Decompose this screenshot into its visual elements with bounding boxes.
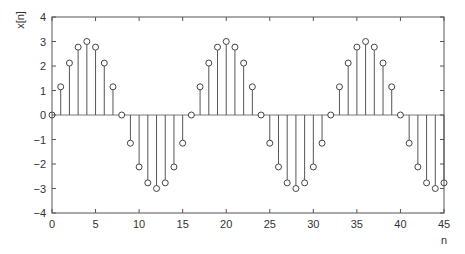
y-tick-label: 4: [40, 11, 46, 23]
stem-marker: [93, 44, 99, 50]
stem-marker: [415, 164, 421, 170]
stem-marker: [188, 112, 194, 118]
x-axis-label: n: [441, 234, 447, 246]
stem-marker: [162, 180, 168, 186]
y-tick-label: −4: [33, 207, 46, 219]
y-tick-label: 3: [40, 36, 46, 48]
stem-marker: [101, 60, 107, 66]
stem-marker: [145, 180, 151, 186]
x-tick-label: 10: [133, 218, 145, 230]
stem-marker: [180, 140, 186, 146]
stem-marker: [136, 164, 142, 170]
stem-marker: [110, 84, 116, 90]
stem-marker: [249, 84, 255, 90]
stem-marker: [66, 60, 72, 66]
stem-marker: [345, 60, 351, 66]
stem-marker: [354, 44, 360, 50]
x-tick-label: 0: [49, 218, 55, 230]
stem-marker: [293, 186, 299, 192]
stem-marker: [275, 164, 281, 170]
x-tick-label: 5: [92, 218, 98, 230]
stem-marker: [197, 84, 203, 90]
stem-marker: [241, 60, 247, 66]
stem-marker: [319, 140, 325, 146]
stem-marker: [206, 60, 212, 66]
x-tick-label: 25: [264, 218, 276, 230]
stem-marker: [154, 186, 160, 192]
stem-marker: [119, 112, 125, 118]
y-tick-label: 2: [40, 60, 46, 72]
stem-marker: [232, 44, 238, 50]
stem-marker: [424, 180, 430, 186]
y-tick-label: 0: [40, 109, 46, 121]
stem-marker: [363, 39, 369, 45]
stem-marker: [432, 186, 438, 192]
y-tick-label: −3: [33, 183, 46, 195]
stem-marker: [389, 84, 395, 90]
y-axis-label: x[n]: [14, 11, 26, 29]
stem-marker: [215, 44, 221, 50]
stem-marker: [171, 164, 177, 170]
stem-marker: [371, 44, 377, 50]
stem-marker: [58, 84, 64, 90]
stem-series: [49, 39, 447, 192]
y-tick-label: −1: [33, 134, 46, 146]
stem-marker: [84, 39, 90, 45]
stem-marker: [267, 140, 273, 146]
stem-marker: [336, 84, 342, 90]
x-tick-label: 30: [307, 218, 319, 230]
stem-marker: [310, 164, 316, 170]
x-tick-label: 45: [438, 218, 450, 230]
stem-plot: 051015202530354045 −4−3−2−101234 n x[n]: [0, 0, 465, 254]
x-tick-label: 15: [177, 218, 189, 230]
x-axis-ticks: 051015202530354045: [49, 17, 450, 230]
stem-marker: [284, 180, 290, 186]
x-tick-label: 35: [351, 218, 363, 230]
stem-marker: [380, 60, 386, 66]
stem-marker: [127, 140, 133, 146]
stem-marker: [75, 44, 81, 50]
stem-marker: [406, 140, 412, 146]
x-tick-label: 40: [394, 218, 406, 230]
y-tick-label: −2: [33, 158, 46, 170]
x-tick-label: 20: [220, 218, 232, 230]
stem-marker: [258, 112, 264, 118]
stem-marker: [223, 39, 229, 45]
y-tick-label: 1: [40, 85, 46, 97]
stem-marker: [328, 112, 334, 118]
stem-marker: [397, 112, 403, 118]
stem-marker: [302, 180, 308, 186]
